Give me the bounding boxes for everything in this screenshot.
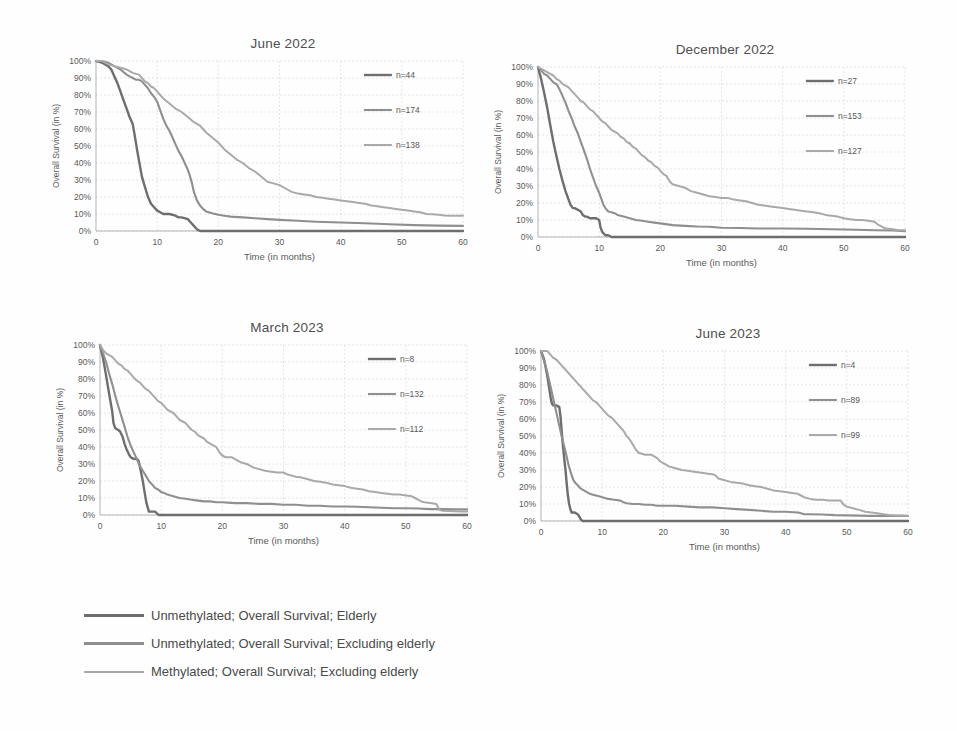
chart-december-2022: December 2022 0%10%20%30%40%50%60%70%80%… bbox=[490, 42, 918, 271]
x-tick-label: 40 bbox=[778, 243, 788, 253]
x-tick-label: 50 bbox=[397, 237, 407, 247]
inset-legend-label: n=127 bbox=[838, 146, 862, 156]
x-tick-label: 60 bbox=[462, 521, 472, 531]
inset-legend-label: n=44 bbox=[396, 70, 415, 80]
inset-legend-label: n=4 bbox=[841, 360, 856, 370]
x-tick-label: 60 bbox=[903, 527, 913, 537]
x-tick-label: 60 bbox=[458, 237, 468, 247]
y-tick-label: 90% bbox=[519, 363, 536, 373]
plot-area: 0%10%20%30%40%50%60%70%80%90%100%0102030… bbox=[490, 59, 918, 271]
y-tick-label: 70% bbox=[516, 113, 533, 123]
x-tick-label: 0 bbox=[98, 521, 103, 531]
y-tick-label: 60% bbox=[74, 124, 91, 134]
x-tick-label: 20 bbox=[214, 237, 224, 247]
x-tick-label: 30 bbox=[275, 237, 285, 247]
y-tick-label: 0% bbox=[521, 232, 534, 242]
y-tick-label: 0% bbox=[83, 510, 96, 520]
inset-legend-label: n=153 bbox=[838, 111, 862, 121]
x-tick-label: 30 bbox=[279, 521, 289, 531]
y-tick-label: 0% bbox=[524, 516, 537, 526]
y-tick-label: 20% bbox=[519, 482, 536, 492]
chart-title: June 2023 bbox=[493, 326, 921, 341]
x-tick-label: 30 bbox=[717, 243, 727, 253]
x-axis-label: Time (in months) bbox=[244, 251, 315, 262]
x-tick-label: 20 bbox=[218, 521, 228, 531]
y-tick-label: 90% bbox=[74, 73, 91, 83]
x-tick-label: 50 bbox=[842, 527, 852, 537]
figure-legend-swatch bbox=[84, 642, 144, 645]
inset-legend-label: n=89 bbox=[841, 395, 860, 405]
y-tick-label: 90% bbox=[78, 357, 95, 367]
chart-title: June 2022 bbox=[48, 36, 476, 51]
y-tick-label: 10% bbox=[74, 209, 91, 219]
figure-legend: Unmethylated; Overall Survival; ElderlyU… bbox=[84, 608, 435, 679]
y-tick-label: 30% bbox=[516, 181, 533, 191]
y-axis-label: Overall Survival (in %) bbox=[51, 104, 61, 188]
chart-canvas: 0%10%20%30%40%50%60%70%80%90%100%0102030… bbox=[48, 53, 476, 265]
inset-legend-label: n=174 bbox=[396, 105, 420, 115]
y-tick-label: 70% bbox=[519, 397, 536, 407]
y-tick-label: 50% bbox=[78, 425, 95, 435]
x-tick-label: 20 bbox=[659, 527, 669, 537]
figure-legend-swatch bbox=[84, 614, 144, 617]
inset-legend-label: n=27 bbox=[838, 76, 857, 86]
x-tick-label: 30 bbox=[720, 527, 730, 537]
figure-legend-swatch bbox=[84, 671, 144, 673]
x-tick-label: 10 bbox=[597, 527, 607, 537]
survival-figure-page: June 2022 0%10%20%30%40%50%60%70%80%90%1… bbox=[0, 0, 957, 731]
y-tick-label: 80% bbox=[78, 374, 95, 384]
y-tick-label: 100% bbox=[69, 56, 91, 66]
y-tick-label: 70% bbox=[74, 107, 91, 117]
chart-june-2022: June 2022 0%10%20%30%40%50%60%70%80%90%1… bbox=[48, 36, 476, 265]
x-tick-label: 0 bbox=[536, 243, 541, 253]
x-tick-label: 40 bbox=[336, 237, 346, 247]
y-tick-label: 80% bbox=[519, 380, 536, 390]
inset-legend-label: n=99 bbox=[841, 430, 860, 440]
x-tick-label: 0 bbox=[539, 527, 544, 537]
plot-area: 0%10%20%30%40%50%60%70%80%90%100%0102030… bbox=[48, 53, 476, 265]
x-tick-label: 10 bbox=[156, 521, 166, 531]
inset-legend-label: n=112 bbox=[400, 424, 424, 434]
y-tick-label: 30% bbox=[519, 465, 536, 475]
y-tick-label: 30% bbox=[74, 175, 91, 185]
y-tick-label: 20% bbox=[78, 476, 95, 486]
y-tick-label: 30% bbox=[78, 459, 95, 469]
y-tick-label: 70% bbox=[78, 391, 95, 401]
chart-canvas: 0%10%20%30%40%50%60%70%80%90%100%0102030… bbox=[52, 337, 480, 549]
y-tick-label: 40% bbox=[74, 158, 91, 168]
chart-canvas: 0%10%20%30%40%50%60%70%80%90%100%0102030… bbox=[490, 59, 918, 271]
chart-march-2023: March 2023 0%10%20%30%40%50%60%70%80%90%… bbox=[52, 320, 480, 549]
chart-title: December 2022 bbox=[490, 42, 918, 57]
x-axis-label: Time (in months) bbox=[248, 535, 319, 546]
x-tick-label: 40 bbox=[781, 527, 791, 537]
x-tick-label: 40 bbox=[340, 521, 350, 531]
y-tick-label: 100% bbox=[73, 340, 95, 350]
y-tick-label: 20% bbox=[74, 192, 91, 202]
x-tick-label: 10 bbox=[152, 237, 162, 247]
figure-legend-item: Unmethylated; Overall Survival; Excludin… bbox=[84, 636, 435, 651]
x-tick-label: 0 bbox=[94, 237, 99, 247]
y-axis-label: Overall Survival (in %) bbox=[496, 394, 506, 478]
chart-title: March 2023 bbox=[52, 320, 480, 335]
inset-legend-label: n=132 bbox=[400, 389, 424, 399]
plot-area: 0%10%20%30%40%50%60%70%80%90%100%0102030… bbox=[493, 343, 921, 555]
x-tick-label: 50 bbox=[401, 521, 411, 531]
chart-canvas: 0%10%20%30%40%50%60%70%80%90%100%0102030… bbox=[493, 343, 921, 555]
y-tick-label: 100% bbox=[511, 62, 533, 72]
chart-june-2023: June 2023 0%10%20%30%40%50%60%70%80%90%1… bbox=[493, 326, 921, 555]
y-tick-label: 50% bbox=[516, 147, 533, 157]
y-tick-label: 50% bbox=[74, 141, 91, 151]
y-tick-label: 50% bbox=[519, 431, 536, 441]
x-axis-label: Time (in months) bbox=[689, 541, 760, 552]
y-axis-label: Overall Survival (in %) bbox=[55, 388, 65, 472]
figure-legend-label: Methylated; Overall Survival; Excluding … bbox=[151, 664, 418, 679]
y-tick-label: 90% bbox=[516, 79, 533, 89]
y-tick-label: 0% bbox=[79, 226, 92, 236]
plot-area: 0%10%20%30%40%50%60%70%80%90%100%0102030… bbox=[52, 337, 480, 549]
y-tick-label: 60% bbox=[519, 414, 536, 424]
y-tick-label: 10% bbox=[78, 493, 95, 503]
y-tick-label: 40% bbox=[519, 448, 536, 458]
y-tick-label: 80% bbox=[516, 96, 533, 106]
y-tick-label: 10% bbox=[519, 499, 536, 509]
x-tick-label: 20 bbox=[656, 243, 666, 253]
